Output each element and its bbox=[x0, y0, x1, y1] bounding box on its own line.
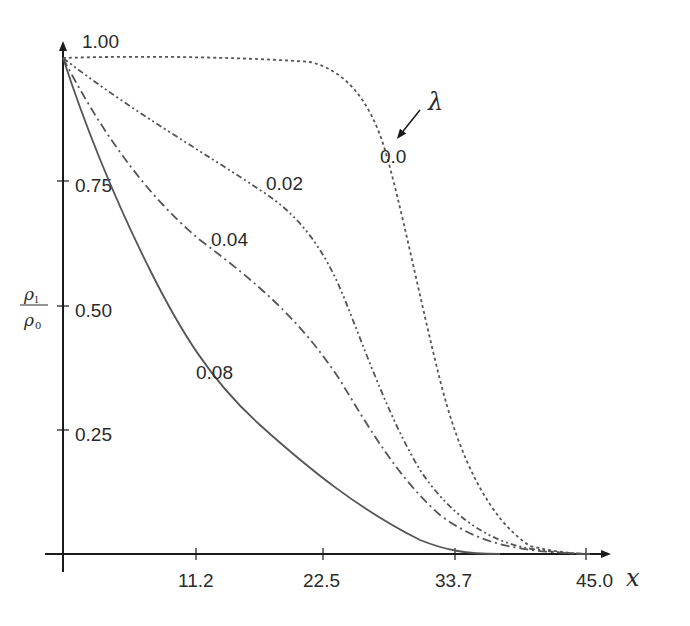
curve-label-0.02: 0.02 bbox=[266, 173, 303, 194]
y-axis-label: ρ l ρ 0 bbox=[20, 284, 48, 331]
y-tick-label: 0.25 bbox=[75, 424, 112, 445]
x-tick-label: 33.7 bbox=[435, 570, 472, 591]
x-tick-label: 22.5 bbox=[303, 570, 340, 591]
rho-numerator: ρ bbox=[23, 284, 34, 304]
lambda-annotation: λ bbox=[400, 88, 443, 135]
chart-canvas: 11.2 22.5 33.7 45.0 0.25 0.50 0.75 1.00 … bbox=[0, 0, 690, 626]
axes bbox=[45, 46, 606, 572]
y-tick-label: 0.50 bbox=[75, 300, 112, 321]
rho-numerator-subscript: l bbox=[35, 294, 38, 305]
x-axis-label: x bbox=[626, 564, 640, 592]
curve-lambda-0.0 bbox=[63, 57, 590, 554]
curve-lambda-0.04 bbox=[63, 58, 590, 554]
curve-label-0.0: 0.0 bbox=[380, 146, 406, 167]
lambda-arrow bbox=[400, 110, 420, 135]
y-tick-label: 1.00 bbox=[82, 31, 119, 52]
curve-lambda-0.08 bbox=[63, 58, 500, 554]
x-tick-label: 11.2 bbox=[178, 570, 214, 591]
lambda-symbol: λ bbox=[427, 88, 443, 116]
x-tick-label: 45.0 bbox=[576, 570, 613, 591]
curve-label-0.08: 0.08 bbox=[196, 362, 233, 383]
curve-label-0.04: 0.04 bbox=[211, 229, 248, 250]
rho-denominator-subscript: 0 bbox=[35, 320, 41, 331]
y-tick-label: 0.75 bbox=[75, 175, 112, 196]
rho-denominator: ρ bbox=[23, 310, 34, 330]
curve-lambda-0.02 bbox=[63, 58, 590, 554]
